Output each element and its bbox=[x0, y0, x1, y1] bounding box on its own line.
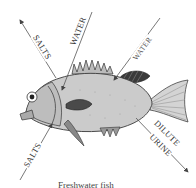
diagram-canvas: SALTS WATER WATER SALTS DILUTE URINE Fre… bbox=[0, 0, 196, 188]
diagram-caption: Freshwater fish bbox=[58, 180, 114, 188]
dorsal-fin-icon bbox=[72, 60, 113, 74]
fish-head-icon bbox=[26, 82, 62, 126]
tail-fin-icon bbox=[150, 80, 188, 122]
anal-fin-icon bbox=[100, 127, 120, 137]
mouth-icon bbox=[20, 110, 34, 120]
